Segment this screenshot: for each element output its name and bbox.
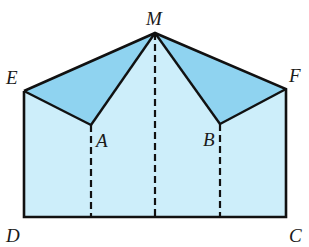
- label-E: E: [5, 67, 18, 88]
- label-M: M: [145, 8, 163, 29]
- label-D: D: [5, 225, 20, 246]
- label-B: B: [203, 129, 215, 150]
- label-F: F: [288, 65, 301, 86]
- label-C: C: [289, 225, 302, 246]
- label-A: A: [94, 130, 108, 151]
- geometry-diagram: M E F A B D C: [0, 0, 309, 247]
